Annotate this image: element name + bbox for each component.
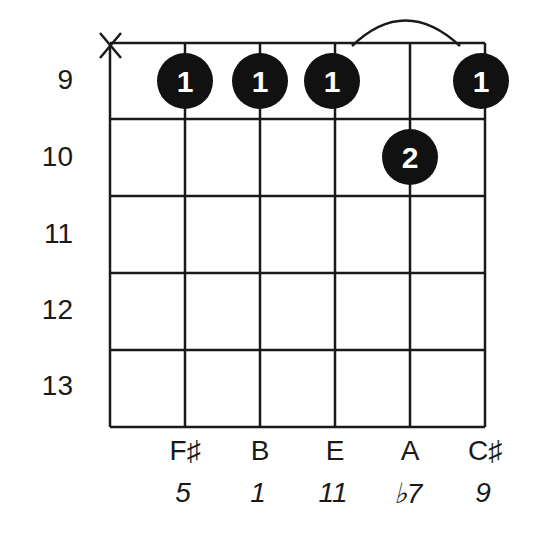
chord-grid: 1 1 1 1 2 <box>0 0 539 550</box>
note-label: F♯ <box>155 435 215 467</box>
interval-label: ♭7 <box>378 477 438 510</box>
finger-number: 1 <box>324 65 341 98</box>
note-label: B <box>230 435 290 467</box>
finger-number: 1 <box>473 65 490 98</box>
interval-label: 11 <box>303 477 363 509</box>
fret-number: 11 <box>13 218 73 250</box>
fret-number: 13 <box>13 370 73 402</box>
fret-number: 9 <box>13 64 73 96</box>
interval-label: 1 <box>228 477 288 509</box>
note-label: E <box>305 435 365 467</box>
finger-number: 1 <box>252 65 269 98</box>
interval-label: 5 <box>153 477 213 509</box>
fret-number: 12 <box>13 294 73 326</box>
finger-number: 1 <box>177 65 194 98</box>
interval-label: 9 <box>453 477 513 509</box>
note-label: C♯ <box>455 435 515 467</box>
note-label: A <box>380 435 440 467</box>
finger-number: 2 <box>402 141 419 174</box>
fret-number: 10 <box>13 141 73 173</box>
